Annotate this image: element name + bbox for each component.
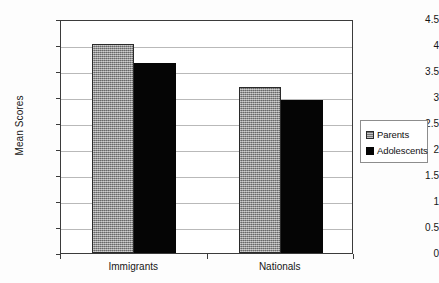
y-axis-title: Mean Scores xyxy=(14,76,25,176)
x-tick-mark xyxy=(207,254,208,259)
y-tick-label: 4.5 xyxy=(393,14,439,25)
chart-legend: Parents Adolescents xyxy=(360,120,428,163)
y-tick-label: 0 xyxy=(393,248,439,259)
y-tick-label: 3 xyxy=(393,92,439,103)
legend-label-parents: Parents xyxy=(377,129,409,140)
legend-item-adolescents: Adolescents xyxy=(366,145,422,156)
y-tick-label: 1.5 xyxy=(393,170,439,181)
x-category-label: Immigrants xyxy=(63,261,203,272)
legend-swatch-adolescents-icon xyxy=(366,147,374,155)
x-category-label: Nationals xyxy=(210,261,350,272)
bar-immigrants-parents xyxy=(92,44,134,253)
y-tick-label: 4 xyxy=(393,40,439,51)
legend-label-adolescents: Adolescents xyxy=(377,145,428,156)
y-tick-label: 0.5 xyxy=(393,222,439,233)
bar-nationals-adolescents xyxy=(281,100,323,253)
x-tick-mark xyxy=(353,254,354,259)
plot-area xyxy=(60,20,353,254)
legend-item-parents: Parents xyxy=(366,129,422,140)
y-tick-label: 1 xyxy=(393,196,439,207)
bar-immigrants-adolescents xyxy=(134,63,176,253)
chart-canvas: Mean Scores 00.511.522.533.544.5 Immigra… xyxy=(0,0,439,283)
legend-swatch-parents-icon xyxy=(366,131,374,139)
bar-nationals-parents xyxy=(239,87,281,253)
y-tick-label: 3.5 xyxy=(393,66,439,77)
x-tick-mark xyxy=(60,254,61,259)
